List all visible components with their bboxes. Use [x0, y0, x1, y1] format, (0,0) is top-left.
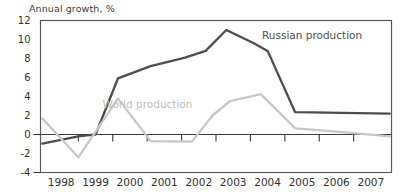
x-tick-label: 2000: [113, 177, 147, 188]
y-tick-label: 6: [9, 73, 31, 83]
x-tick-label: 2004: [251, 177, 285, 188]
y-tick-label: 12: [9, 16, 31, 26]
y-tick-label: 4: [9, 92, 31, 102]
x-tick-label: 2005: [285, 177, 319, 188]
y-tick-label: 10: [9, 35, 31, 45]
x-tick-label: 2007: [354, 177, 388, 188]
series-label-world: World production: [103, 99, 193, 110]
x-tick-label: 1998: [44, 177, 78, 188]
plot-frame: [41, 21, 392, 173]
y-tick-label: 0: [9, 130, 31, 140]
y-tick-label: 8: [9, 54, 31, 64]
chart-container: Annual growth, % 121086420-2-4 199819992…: [0, 0, 407, 195]
y-tick-label: -4: [9, 168, 31, 178]
axis-ticks: [34, 135, 392, 173]
y-tick-label: -2: [9, 149, 31, 159]
x-tick-label: 2002: [182, 177, 216, 188]
y-tick-label: 2: [9, 111, 31, 121]
series-label-russian: Russian production: [262, 30, 362, 41]
x-tick-label: 2001: [147, 177, 181, 188]
x-tick-label: 2003: [216, 177, 250, 188]
x-tick-label: 1999: [79, 177, 113, 188]
x-tick-label: 2006: [319, 177, 353, 188]
